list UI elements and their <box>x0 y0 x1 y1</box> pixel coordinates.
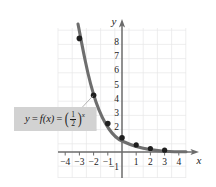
x-tick-label: −1 <box>103 157 113 167</box>
x-axis-label: x <box>196 154 202 166</box>
data-point <box>119 135 125 141</box>
data-point <box>134 142 139 147</box>
exponent-x: x <box>82 112 85 119</box>
fraction-one-half: 1 2 <box>70 111 77 128</box>
x-tick-label: −3 <box>74 157 84 167</box>
fraction-denominator: 2 <box>70 119 76 128</box>
y-tick-label: 8 <box>114 37 119 47</box>
y-tick-label: 7 <box>114 51 119 61</box>
x-tick-label: −4 <box>60 157 70 167</box>
graph-canvas: 8 7 6 5 4 3 2 −1 −4 −3 −2 −1 1 2 3 4 y x <box>0 0 216 187</box>
exponential-curve <box>78 24 186 152</box>
callout-leader-line <box>14 96 93 108</box>
x-tick-label: 3 <box>162 157 167 167</box>
data-point <box>148 146 153 151</box>
equation-text: y = f(x) = ( 1 2 ) x <box>25 111 85 128</box>
data-point <box>162 148 167 153</box>
fraction-numerator: 1 <box>70 111 76 119</box>
paren-open: ( <box>65 113 69 126</box>
y-tick-label: 5 <box>114 80 119 90</box>
exponential-decay-figure: 8 7 6 5 4 3 2 −1 −4 −3 −2 −1 1 2 3 4 y x… <box>0 0 216 187</box>
equation-equals-1: = <box>30 114 40 125</box>
x-tick-label: 4 <box>176 157 181 167</box>
x-tick-label: 1 <box>134 157 139 167</box>
y-tick-label: 2 <box>114 122 119 132</box>
x-tick-label: 2 <box>148 157 153 167</box>
data-point <box>77 36 83 42</box>
y-axis-label: y <box>111 15 117 27</box>
paren-close: ) <box>77 113 81 126</box>
axis-lines <box>58 22 196 178</box>
x-tick-label: −2 <box>89 157 99 167</box>
y-tick-label: 4 <box>114 94 119 104</box>
y-tick-label: 3 <box>114 108 119 118</box>
equation-fx: f(x) <box>40 114 55 125</box>
y-tick-label: 6 <box>114 65 119 75</box>
data-point <box>105 121 111 127</box>
equation-callout: y = f(x) = ( 1 2 ) x <box>14 107 96 131</box>
x-tick-labels: −4 −3 −2 −1 1 2 3 4 <box>60 157 181 167</box>
equation-equals-2: = <box>54 114 64 125</box>
